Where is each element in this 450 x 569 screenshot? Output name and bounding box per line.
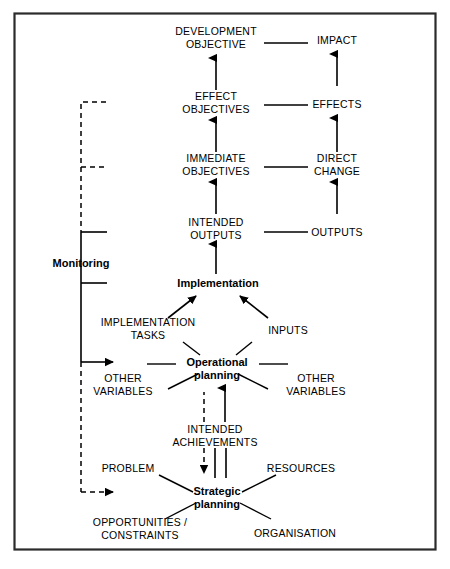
connector-operational-othervars-right-diag: [238, 374, 268, 389]
node-intended-outputs-line2: OUTPUTS: [190, 229, 242, 241]
node-effects: EFFECTS: [312, 98, 361, 110]
node-strategic-planning-line2: planning: [194, 498, 240, 510]
node-resources: RESOURCES: [267, 462, 335, 474]
node-other-variables-left-line1: OTHER: [104, 372, 142, 384]
node-direct-change-line2: CHANGE: [314, 165, 360, 177]
node-implementation-tasks-line2: TASKS: [131, 329, 166, 341]
node-inputs: INPUTS: [268, 324, 308, 336]
arrow-inputs-to-implementation: [240, 296, 268, 318]
node-intended-outputs-line1: INTENDED: [188, 216, 243, 228]
node-implementation: Implementation: [177, 277, 259, 289]
node-problem: PROBLEM: [102, 462, 155, 474]
node-operational-planning-line1: Operational: [186, 356, 247, 368]
flow-diagram: DEVELOPMENT OBJECTIVE IMPACT EFFECT OBJE…: [0, 0, 450, 569]
node-monitoring: Monitoring: [53, 257, 110, 269]
connector-operational-tasks: [183, 342, 200, 355]
node-implementation-tasks-line1: IMPLEMENTATION: [101, 316, 196, 328]
node-organisation: ORGANISATION: [254, 527, 336, 539]
connector-strategic-organisation: [240, 503, 271, 519]
node-other-variables-left-line2: VARIABLES: [93, 385, 152, 397]
node-immediate-objectives-line2: OBJECTIVES: [182, 165, 249, 177]
arrow-tasks-to-implementation: [168, 296, 196, 318]
node-opportunities-constraints-line1: OPPORTUNITIES /: [93, 516, 187, 528]
connector-operational-inputs: [236, 342, 252, 355]
node-effect-objectives-line2: OBJECTIVES: [182, 103, 249, 115]
node-effect-objectives-line1: EFFECT: [195, 90, 237, 102]
node-outputs: OUTPUTS: [311, 226, 363, 238]
node-impact: IMPACT: [317, 34, 357, 46]
connector-strategic-problem: [159, 475, 193, 492]
node-other-variables-right-line2: VARIABLES: [286, 385, 345, 397]
node-intended-achievements-line2: ACHIEVEMENTS: [172, 436, 257, 448]
node-development-objective-line2: OBJECTIVE: [186, 38, 246, 50]
node-operational-planning-line2: planning: [194, 369, 240, 381]
node-other-variables-right-line1: OTHER: [297, 372, 335, 384]
diagram-page: DEVELOPMENT OBJECTIVE IMPACT EFFECT OBJE…: [0, 0, 450, 569]
node-direct-change-line1: DIRECT: [317, 152, 358, 164]
node-intended-achievements-line1: INTENDED: [187, 423, 242, 435]
node-development-objective-line1: DEVELOPMENT: [175, 25, 257, 37]
connector-strategic-resources: [242, 475, 276, 492]
node-immediate-objectives-line1: IMMEDIATE: [186, 152, 245, 164]
node-opportunities-constraints-line2: CONSTRAINTS: [101, 529, 178, 541]
node-strategic-planning-line1: Strategic: [193, 485, 240, 497]
